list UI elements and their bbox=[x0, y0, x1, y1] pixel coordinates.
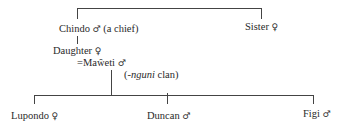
chindo-tick bbox=[77, 8, 78, 19]
male-icon: ♂ bbox=[182, 111, 190, 121]
chindo-note: (a chief) bbox=[103, 23, 138, 34]
duncan-tick bbox=[167, 93, 168, 104]
female-icon: ♀ bbox=[52, 111, 59, 121]
child-name: Duncan bbox=[147, 110, 180, 121]
spouse-node: =Maŵeti ♂ bbox=[77, 57, 126, 69]
spouse-name: Maŵeti bbox=[83, 57, 115, 68]
chindo-name: Chindo bbox=[59, 23, 90, 34]
clan-name: nguni bbox=[131, 69, 155, 80]
female-icon: ♀ bbox=[95, 46, 102, 56]
sister-name: Sister bbox=[245, 21, 269, 32]
female-icon: ♀ bbox=[272, 22, 279, 32]
daughter-node: Daughter ♀ bbox=[53, 45, 101, 57]
child-name: Figi bbox=[303, 108, 320, 119]
clan-prefix: (- bbox=[124, 69, 131, 80]
descent-line-chindo bbox=[77, 36, 78, 44]
sister-node: Sister ♀ bbox=[245, 21, 278, 33]
chindo-node: Chindo ♂ (a chief) bbox=[59, 23, 139, 35]
child-node-duncan: Duncan ♂ bbox=[147, 110, 190, 122]
sister-tick bbox=[261, 8, 262, 19]
child-node-lupondo: Lupondo ♀ bbox=[11, 110, 58, 122]
child-name: Lupondo bbox=[11, 110, 49, 121]
children-line bbox=[34, 95, 314, 96]
male-icon: ♂ bbox=[118, 58, 126, 68]
descent-line-couple bbox=[111, 70, 112, 95]
sibling-line bbox=[77, 8, 262, 9]
lupondo-tick bbox=[34, 95, 35, 104]
child-node-figi: Figi ♂ bbox=[303, 108, 331, 120]
figi-tick bbox=[313, 95, 314, 104]
male-icon: ♂ bbox=[323, 109, 331, 119]
clan-suffix: clan) bbox=[155, 69, 179, 80]
male-icon: ♂ bbox=[93, 24, 101, 34]
daughter-name: Daughter bbox=[53, 45, 92, 56]
clan-note: (-nguni clan) bbox=[124, 69, 179, 81]
